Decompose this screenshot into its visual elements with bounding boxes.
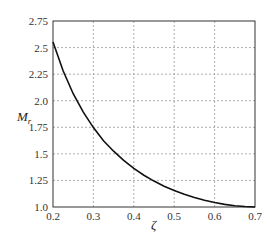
x-axis-label: ζ — [151, 217, 157, 232]
y-axis-label: Mr — [16, 109, 32, 126]
chart: 1.01.251.51.752.02.252.52.75 0.20.30.40.… — [0, 0, 270, 245]
x-tick-label: 0.3 — [87, 210, 101, 222]
y-tick-label: 1.25 — [29, 174, 49, 186]
y-tick-label: 1.75 — [29, 121, 49, 133]
plot-frame — [53, 21, 255, 207]
x-tick-label: 0.7 — [248, 210, 262, 222]
x-tick-label: 0.5 — [167, 210, 181, 222]
y-tick-label: 1.5 — [34, 148, 48, 160]
mr-curve — [53, 42, 255, 207]
y-axis-ticks: 1.01.251.51.752.02.252.52.75 — [29, 15, 49, 213]
x-tick-label: 0.4 — [127, 210, 141, 222]
y-tick-label: 2.5 — [34, 42, 48, 54]
y-tick-label: 2.0 — [34, 95, 48, 107]
y-axis-label-subscript: r — [28, 116, 32, 126]
y-tick-label: 2.25 — [29, 68, 49, 80]
grid-lines — [53, 21, 255, 207]
x-tick-label: 0.6 — [208, 210, 222, 222]
y-tick-label: 2.75 — [29, 15, 49, 27]
x-tick-label: 0.2 — [46, 210, 60, 222]
